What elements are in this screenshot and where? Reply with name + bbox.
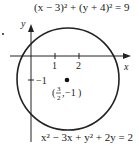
x-axis-label: x [123, 61, 129, 72]
bottom-equation: x² − 3x + y² + 2y = 2 [41, 131, 133, 143]
svg-text:(: ( [52, 87, 56, 99]
svg-text:2: 2 [57, 94, 61, 102]
x-axis-arrow-icon [123, 53, 131, 59]
svg-text:3: 3 [57, 85, 61, 93]
x-tick-label-1: 1 [52, 60, 57, 71]
bullet-dot [2, 33, 4, 35]
svg-text:): ) [78, 87, 81, 99]
svg-text:−1: −1 [65, 87, 76, 98]
y-axis-label: y [20, 18, 26, 29]
center-point-label: ( 3 2 , −1 ) [52, 85, 81, 102]
x-tick-label-2: 2 [76, 60, 81, 71]
coordinate-diagram: y x 1 2 −1 ( 3 2 , −1 ) [0, 0, 139, 151]
y-tick-label-neg1: −1 [36, 75, 47, 86]
center-point [65, 78, 70, 83]
y-axis-arrow-icon [28, 24, 34, 32]
